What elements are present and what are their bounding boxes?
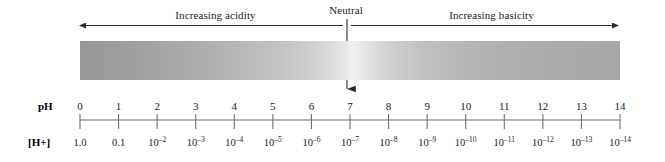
exponent: –12 (542, 135, 553, 144)
concentration-value-ph-1: 0.1 (112, 136, 125, 149)
ph-value-7: 7 (347, 100, 353, 113)
concentration-value-ph-8: 10–8 (380, 136, 398, 149)
exponent: –7 (352, 135, 360, 144)
ph-color-gradient-bar (80, 41, 620, 80)
exponent: –8 (390, 135, 398, 144)
exponent: –4 (236, 135, 244, 144)
concentration-value-ph-11: 10–11 (494, 136, 515, 149)
increasing-basicity-label: Increasing basicity (424, 9, 559, 22)
exponent: –9 (429, 135, 437, 144)
concentration-value-ph-13: 10–13 (571, 136, 593, 149)
concentration-value-ph-2: 10–2 (148, 136, 166, 149)
neutral-label: Neutral (306, 4, 386, 17)
concentration-value-ph-12: 10–12 (532, 136, 554, 149)
ph-value-13: 13 (576, 100, 587, 113)
concentration-value-ph-5: 10–5 (264, 136, 282, 149)
increasing-acidity-label: Increasing acidity (148, 9, 283, 22)
exponent: –2 (159, 135, 167, 144)
concentration-value-ph-3: 10–3 (187, 136, 205, 149)
exponent: –14 (620, 135, 631, 144)
concentration-value-ph-0: 1.0 (73, 136, 86, 149)
ph-value-3: 3 (193, 100, 199, 113)
concentration-value-ph-4: 10–4 (225, 136, 243, 149)
ph-value-2: 2 (154, 100, 160, 113)
exponent: –5 (274, 135, 282, 144)
ph-scale-figure: Increasing acidity Neutral Increasing ba… (0, 0, 665, 162)
concentration-value-ph-7: 10–7 (341, 136, 359, 149)
ph-value-12: 12 (537, 100, 548, 113)
conc-label-text: [H+] (28, 136, 50, 148)
concentration-value-ph-6: 10–6 (302, 136, 320, 149)
exponent: –11 (504, 135, 515, 144)
ph-tick-marks (80, 114, 620, 129)
ph-value-11: 11 (499, 100, 510, 113)
hydrogen-concentration-row-label: [H+] (28, 136, 50, 149)
ph-value-0: 0 (77, 100, 83, 113)
exponent: –3 (197, 135, 205, 144)
ph-value-14: 14 (615, 100, 626, 113)
exponent: –6 (313, 135, 321, 144)
ph-row-label: pH (38, 100, 53, 113)
annotation-arrows (0, 0, 665, 162)
exponent: –10 (465, 135, 476, 144)
ph-value-5: 5 (270, 100, 276, 113)
exponent: –13 (581, 135, 592, 144)
ph-value-4: 4 (232, 100, 238, 113)
concentration-value-ph-9: 10–9 (418, 136, 436, 149)
concentration-value-ph-10: 10–10 (455, 136, 477, 149)
ph-value-6: 6 (309, 100, 315, 113)
concentration-value-ph-14: 10–14 (609, 136, 631, 149)
ph-value-8: 8 (386, 100, 392, 113)
ph-axis (80, 114, 620, 129)
ph-value-9: 9 (424, 100, 430, 113)
ph-value-10: 10 (460, 100, 471, 113)
ph-value-1: 1 (116, 100, 122, 113)
